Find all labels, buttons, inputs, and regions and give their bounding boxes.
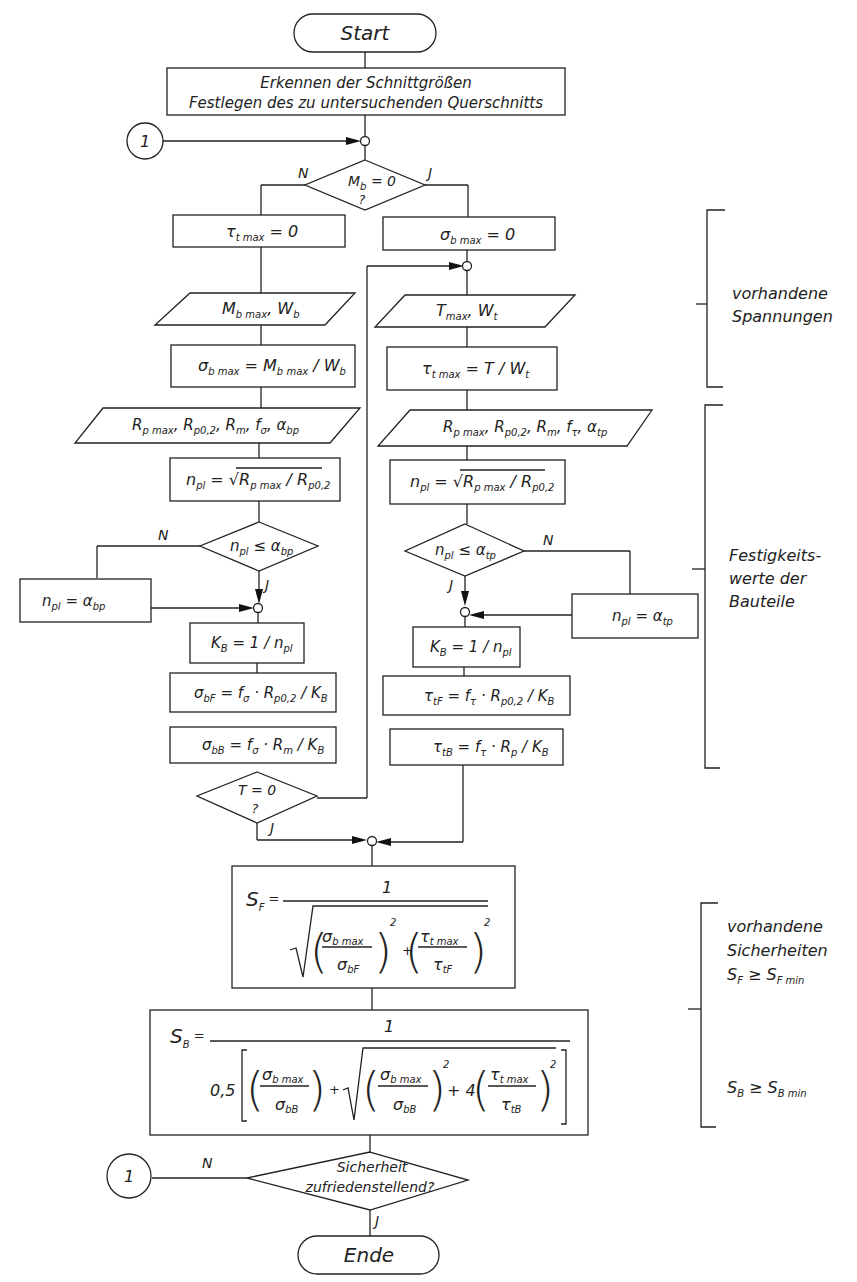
svg-text:Sicherheit: Sicherheit	[337, 1159, 408, 1175]
left-sigma-bf-box: σbF = fσ · Rp0,2 / KB	[170, 673, 336, 712]
junction-node	[463, 262, 472, 271]
right-tau-calc-box: τt max = T / Wt	[387, 347, 557, 390]
branch-yes: J	[425, 165, 432, 181]
left-sigma-bb-box: σbB = fσ · Rm / KB	[170, 727, 336, 763]
svg-text:0,5: 0,5	[210, 1081, 235, 1100]
svg-text:τtF = fτ · Rp0,2 / KB: τtF = fτ · Rp0,2 / KB	[424, 687, 555, 707]
svg-text:): )	[308, 1062, 326, 1116]
svg-text:SF ≥ SF min: SF ≥ SF min	[727, 965, 804, 986]
svg-text:2: 2	[443, 1059, 449, 1070]
svg-text:vorhandene: vorhandene	[732, 284, 828, 303]
svg-text:1: 1	[382, 878, 392, 897]
junction-node	[461, 608, 470, 617]
sf-formula-box: SF = 1 ( σb max σbF ) 2 + ( τt max τtF )…	[232, 866, 515, 988]
svg-text:): )	[469, 924, 487, 978]
svg-text:?: ?	[359, 192, 366, 207]
flowchart-canvas: Start Erkennen der Schnittgrößen Festleg…	[0, 0, 857, 1282]
arrow-head-icon	[449, 262, 464, 270]
right-npl-set-box: npl = αtp	[572, 594, 698, 638]
annotation-safety: vorhandene Sicherheiten SF ≥ SF min SB ≥…	[688, 903, 828, 1127]
decision-npl-abp: npl ≤ αbp	[200, 522, 318, 571]
svg-text:zufriedenstellend?: zufriedenstellend?	[305, 1179, 435, 1195]
arrow-head-icon	[255, 589, 263, 604]
connector-1-bottom: 1	[107, 1154, 151, 1198]
right-npl-calc-box: npl = √Rp max / Rp0,2	[390, 460, 565, 504]
svg-text:): )	[374, 924, 392, 978]
junction-node	[368, 837, 377, 846]
left-input-material: Rp max, Rp0,2, Rm, fσ, αbp	[75, 408, 360, 443]
svg-text:Bauteile: Bauteile	[729, 592, 795, 611]
decision-npl-atp: npl ≤ αtp	[405, 524, 524, 576]
left-input-mb-wb: Mb max, Wb	[155, 293, 355, 325]
intro-line-2: Festlegen des zu untersuchenden Querschn…	[189, 94, 543, 112]
svg-text:vorhandene: vorhandene	[727, 917, 823, 936]
svg-text:(: (	[472, 1062, 490, 1116]
arrow-head-icon	[469, 611, 484, 619]
svg-text:werte der: werte der	[729, 569, 808, 588]
left-npl-set-box: npl = αbp	[20, 579, 151, 622]
right-tau-tf-box: τtF = fτ · Rp0,2 / KB	[383, 676, 570, 715]
branch-no: N	[202, 1155, 213, 1171]
decision-t-zero: T = 0 ?	[197, 772, 317, 823]
svg-text:(: (	[362, 1062, 380, 1116]
svg-text:Festigkeits-: Festigkeits-	[729, 546, 821, 565]
decision-mb-zero: Mb = 0 ?	[305, 160, 425, 210]
connector-1-top: 1	[127, 123, 163, 159]
connector-label: 1	[124, 1167, 134, 1186]
intro-line-1: Erkennen der Schnittgrößen	[260, 74, 472, 92]
svg-text:2: 2	[390, 917, 396, 928]
annotation-strength: Festigkeits- werte der Bauteile	[692, 405, 821, 768]
right-sigma-zero-box: σb max = 0	[383, 217, 555, 250]
svg-text:T = 0: T = 0	[238, 782, 276, 798]
arrow-head-icon	[239, 604, 254, 612]
sb-formula-box: SB = 1 0,5 ( σb max σbB ) + ( σb max σbB…	[150, 1010, 588, 1135]
intro-process-box: Erkennen der Schnittgrößen Festlegen des…	[167, 68, 565, 115]
svg-text:?: ?	[252, 801, 259, 816]
arrow-head-icon	[346, 137, 361, 145]
branch-no: N	[158, 527, 169, 543]
junction-node	[254, 604, 263, 613]
branch-no: N	[543, 532, 554, 548]
svg-text:+: +	[329, 1082, 340, 1097]
arrow-head-icon	[352, 836, 367, 844]
left-sigma-calc-box: σb max = Mb max / Wb	[171, 345, 355, 387]
left-tau-zero-box: τt max = 0	[173, 215, 345, 247]
end-terminal: Ende	[298, 1236, 439, 1274]
annotation-stresses: vorhandene Spannungen	[696, 210, 833, 387]
svg-text:): )	[536, 1062, 554, 1116]
branch-yes: J	[267, 820, 274, 836]
branch-yes: J	[372, 1213, 379, 1229]
arrow-head-icon	[461, 591, 469, 606]
right-input-material: Rp max, Rp0,2, Rm, fτ, αtp	[378, 410, 652, 446]
left-npl-calc-box: npl = √Rp max / Rp0,2	[170, 458, 340, 501]
branch-no: N	[298, 165, 309, 181]
svg-text:2: 2	[484, 917, 490, 928]
svg-text:Sicherheiten: Sicherheiten	[727, 941, 828, 960]
arrow-head-icon	[376, 838, 391, 846]
right-kb-box: KB = 1 / npl	[413, 627, 520, 667]
svg-text:Tmax, Wt: Tmax, Wt	[436, 301, 499, 322]
svg-text:1: 1	[384, 1017, 394, 1036]
svg-text:): )	[428, 1062, 446, 1116]
right-input-t-wt: Tmax, Wt	[375, 295, 575, 327]
svg-text:Spannungen: Spannungen	[732, 307, 833, 326]
connector-label: 1	[140, 132, 150, 151]
junction-node	[361, 137, 370, 146]
start-label: Start	[341, 21, 391, 45]
right-tau-tb-box: τtB = fτ · Rp / KB	[390, 729, 563, 765]
left-kb-box: KB = 1 / npl	[190, 623, 304, 663]
svg-text:SB ≥ SB min: SB ≥ SB min	[727, 1078, 807, 1099]
decision-safety: Sicherheit zufriedenstellend?	[247, 1152, 468, 1210]
branch-yes: J	[446, 577, 453, 593]
branch-yes: J	[262, 577, 269, 593]
svg-text:2: 2	[550, 1059, 556, 1070]
start-terminal: Start	[294, 14, 436, 52]
end-label: Ende	[344, 1243, 394, 1267]
